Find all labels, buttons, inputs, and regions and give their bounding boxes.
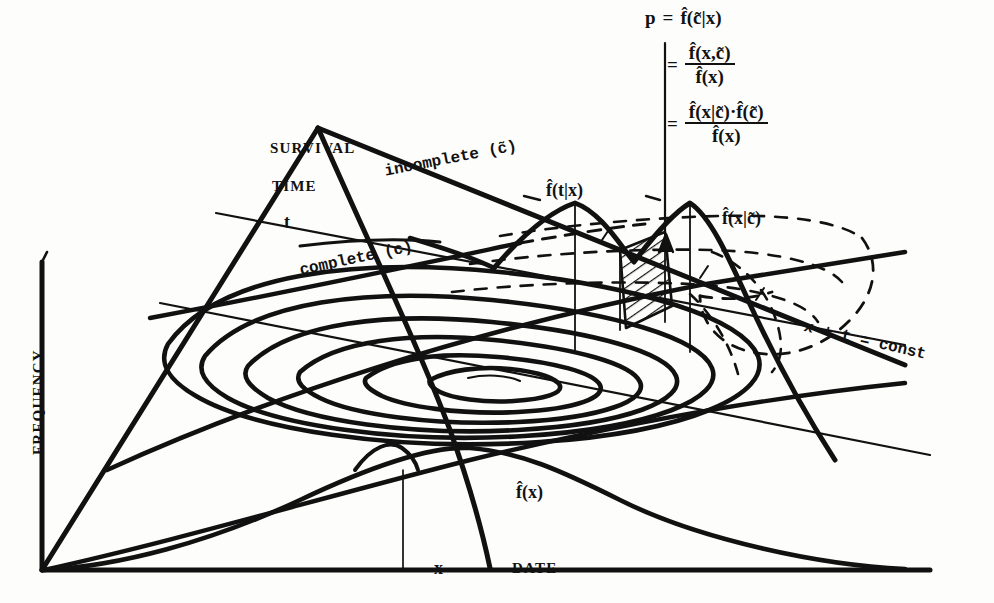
- axis-label-date: DATE: [512, 560, 557, 577]
- formula-line-2: = f̂(x,c̃) f̂(x): [667, 43, 768, 86]
- formula-numerator-2: f̂(x,c̃): [685, 43, 735, 65]
- formula-denominator-3: f̂(x): [685, 124, 768, 145]
- axis-label-survival-time-line1: SURVIVAL: [270, 140, 356, 157]
- formula-denominator-2: f̂(x): [685, 65, 735, 86]
- formula-line-3: = f̂(x|c̃)·f̂(c̃) f̂(x): [667, 102, 768, 145]
- density-label-marginal-fx: f̂(x): [516, 482, 543, 503]
- probability-formula-block: p = f̂(c̃|x) = f̂(x,c̃) f̂(x) = f̂(x|c̃)…: [645, 8, 768, 152]
- figure-drawing-canvas: [0, 0, 994, 603]
- formula-fraction-2: f̂(x,c̃) f̂(x): [685, 43, 735, 86]
- density-label-conditional-x-given-ctilde: f̂(x|c̃): [722, 208, 761, 229]
- survival-density-figure: FREQUENCY DATE x SURVIVAL TIME t incompl…: [0, 0, 994, 603]
- contour-mode-marker: [468, 376, 520, 381]
- formula-numerator-3: f̂(x|c̃)·f̂(c̃): [685, 102, 768, 124]
- formula-equals-2: =: [667, 55, 678, 74]
- formula-equals-1: =: [663, 8, 674, 27]
- formula-equals-3: =: [667, 114, 678, 133]
- axis-tick-label-t: t: [284, 212, 290, 233]
- axis-label-survival-time-line2: TIME: [272, 178, 317, 195]
- formula-rhs-1: f̂(c̃|x): [680, 8, 721, 27]
- ftx-label-leader: [646, 196, 660, 200]
- formula-line-1: p = f̂(c̃|x): [645, 8, 768, 27]
- density-label-conditional-t-given-x: f̂(t|x): [546, 180, 583, 201]
- axis-tick-label-x: x: [434, 558, 443, 579]
- axis-label-frequency: FREQUENCY: [30, 349, 47, 455]
- formula-lhs-p: p: [645, 8, 656, 27]
- formula-fraction-3: f̂(x|c̃)·f̂(c̃) f̂(x): [685, 102, 768, 145]
- axis-end-ticks: [42, 252, 47, 262]
- incomplete-label-leader: [524, 196, 540, 200]
